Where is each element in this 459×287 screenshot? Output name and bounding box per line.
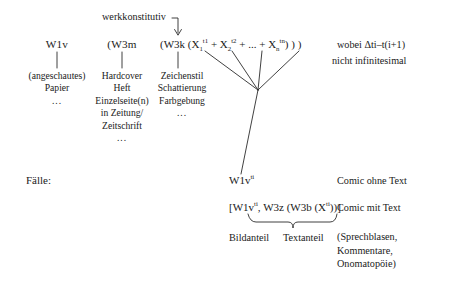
desc-line: Zeitschrift [95, 120, 148, 132]
formula-term3-sub: n [276, 45, 279, 52]
desc-line: ... [158, 107, 207, 119]
side-note-line2: nicht infinitesimal [332, 55, 406, 66]
case2-note: (Sprechblasen, Kommentare, Onomatopöie) [337, 230, 397, 271]
diagonal-x2 [232, 51, 258, 90]
formula-open: (W3k (X [160, 38, 199, 50]
side-note-line1: wobei Δti–t(i+1) [337, 39, 405, 50]
brace-label-bildanteil: Bildanteil [229, 232, 269, 243]
desc-line: Hardcover [95, 70, 148, 82]
diagonal-xn [258, 51, 299, 90]
column-desc-w1v: (angeschautes) Papier ... [28, 70, 85, 107]
formula-close: ) ) ) [285, 38, 302, 50]
note-line: Onomatopöie) [337, 257, 397, 271]
formula-term1-sup: t1 [203, 37, 208, 44]
desc-line: ... [28, 95, 85, 107]
formula-term2-sub: 2 [228, 45, 231, 52]
note-line: (Sprechblasen, [337, 230, 397, 244]
brace-label-textanteil: Textanteil [283, 232, 324, 243]
column-desc-w3m: Hardcover Heft Einzelseite(n) in Zeitung… [95, 70, 148, 144]
desc-line: ... [95, 132, 148, 144]
desc-line: (angeschautes) [28, 70, 85, 82]
case1-caption: Comic ohne Text [337, 175, 407, 186]
formula-plus2: + ... + X [239, 38, 276, 50]
column-head-w3m: (W3m [107, 38, 136, 50]
case2-caption: Comic mit Text [337, 202, 401, 213]
desc-line: Einzelseite(n) [95, 95, 148, 107]
column-desc-w3k: Zeichenstil Schattierung Farbgebung ... [158, 70, 207, 120]
desc-line: Zeichenstil [158, 70, 207, 82]
case2-mid: , W3z (W3b (X [258, 201, 326, 213]
desc-line: Heft [95, 82, 148, 94]
underbrace [248, 214, 337, 228]
note-line: Kommentare, [337, 244, 397, 258]
case1-sup: ti [250, 173, 254, 180]
formula-term2-sup: t2 [231, 37, 236, 44]
formula-term1-sub: 1 [199, 45, 202, 52]
trunk-to-case1 [241, 90, 258, 174]
werkkonstitutiv-label: werkkonstitutiv [102, 11, 166, 22]
diagonal-x1 [205, 51, 258, 90]
desc-line: Papier [28, 82, 85, 94]
case2-open: [W1v [229, 201, 254, 213]
main-formula: (W3k (X1t1 + X2t2 + ... + Xntn) ) ) [160, 38, 301, 50]
desc-line: in Zeitung/ [95, 107, 148, 119]
case1-formula: W1vti [229, 174, 254, 186]
case2-formula: [W1vti, W3z (W3b (Xti))] [229, 201, 341, 213]
diagram-canvas: werkkonstitutiv W1v (angeschautes) Papie… [0, 0, 459, 287]
desc-line: Schattierung [158, 82, 207, 94]
formula-plus1: + X [211, 38, 228, 50]
diagonal-x3 [258, 51, 262, 90]
faelle-label: Fälle: [26, 174, 51, 186]
column-head-w1v: W1v [46, 38, 68, 50]
desc-line: Farbgebung [158, 95, 207, 107]
case1-base: W1v [229, 174, 250, 186]
